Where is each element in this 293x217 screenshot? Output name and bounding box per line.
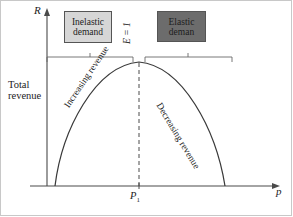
x-axis-symbol: p <box>276 186 282 198</box>
y-axis-title-line2: revenue <box>8 90 41 101</box>
chart-canvas <box>0 0 293 217</box>
inelastic-demand-box: Inelastic demand <box>64 11 112 43</box>
y-axis-title: Total revenue <box>8 79 41 102</box>
inelastic-demand-line2: demand <box>73 27 103 37</box>
y-axis <box>44 8 50 186</box>
x-axis <box>30 183 280 189</box>
inelastic-demand-line1: Inelastic <box>72 17 104 27</box>
x-tick-label-subscript: 1 <box>136 196 140 204</box>
elastic-bracket <box>145 53 232 62</box>
elastic-demand-line1: Elastic <box>169 17 195 27</box>
y-axis-symbol: R <box>34 5 41 17</box>
elastic-demand-box: Elastic deman <box>157 11 206 42</box>
x-tick-label-p1: P1 <box>130 190 140 205</box>
elastic-demand-line2: deman <box>169 27 194 37</box>
revenue-elasticity-figure: R p Total revenue P1 Inelastic demand El… <box>0 0 293 217</box>
elasticity-unit-text: E = 1 <box>122 22 132 44</box>
y-axis-title-line1: Total <box>8 79 41 90</box>
elasticity-unit-marker: E = 1 <box>122 22 132 44</box>
